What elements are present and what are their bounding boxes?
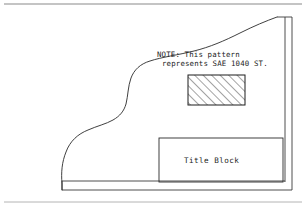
hatch-swatch-fill	[188, 75, 245, 105]
section-hatch-sample	[188, 75, 245, 105]
drawing-canvas: NOTE: This pattern represents SAE 1040 S…	[0, 0, 306, 208]
engineering-drawing-page: NOTE: This pattern represents SAE 1040 S…	[0, 0, 306, 208]
note-line-1: NOTE: This pattern	[157, 50, 240, 59]
title-block-label: Title Block	[184, 156, 239, 165]
note-line-2: represents SAE 1040 ST.	[162, 59, 268, 68]
